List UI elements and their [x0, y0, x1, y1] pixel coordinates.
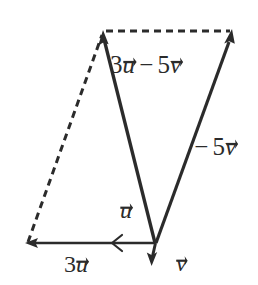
label-resultant: 3u−5v: [110, 52, 181, 77]
label-resultant-vector-v: v: [170, 52, 181, 77]
label-resultant-v-letter: v: [170, 52, 181, 77]
label-u: u: [120, 198, 132, 222]
label-3u-coefficient: 3: [64, 251, 76, 277]
label-resultant-u-letter: u: [123, 52, 136, 77]
label-neg-five-v: −5v: [190, 134, 236, 159]
label-neg5v-coefficient: 5: [213, 133, 226, 160]
vector-diagram: 3u−5v −5v u 3u v: [0, 0, 258, 285]
construction-line-left: [28, 35, 102, 242]
label-neg5v-vector: v: [225, 134, 236, 159]
label-resultant-coefficient-v: 5: [158, 51, 171, 78]
label-u-vector: u: [120, 198, 132, 222]
label-resultant-coefficient-u: 3: [110, 51, 123, 78]
label-u-letter: u: [120, 198, 132, 222]
label-3u-vector: u: [76, 252, 88, 276]
label-neg5v-operator: −: [190, 133, 213, 160]
label-v-letter: v: [176, 251, 187, 275]
label-three-u: 3u: [64, 252, 88, 276]
label-resultant-operator: −: [135, 51, 158, 78]
label-resultant-vector-u: u: [123, 52, 136, 77]
label-v: v: [176, 251, 187, 275]
label-v-vector: v: [176, 251, 187, 275]
label-3u-letter: u: [76, 252, 88, 276]
label-neg5v-letter: v: [225, 134, 236, 159]
